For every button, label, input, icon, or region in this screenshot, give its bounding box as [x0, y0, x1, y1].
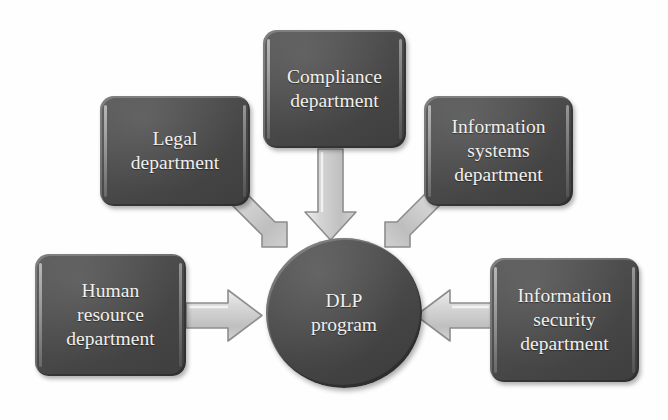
node-compliance-line-1: Compliance	[287, 66, 382, 87]
node-information-systems-department[interactable]: Information systems department	[424, 96, 573, 206]
node-dlp-program-label: DLP program	[311, 289, 377, 337]
node-legal-line-2: department	[131, 152, 220, 173]
node-hr-line-3: department	[66, 328, 155, 349]
diagram-canvas: Legal department Compliance department I…	[0, 0, 668, 420]
node-info-security-line-3: department	[520, 333, 609, 354]
node-dlp-program-line-1: DLP	[326, 290, 363, 311]
node-human-resource-department-label: Human resource department	[60, 279, 161, 350]
node-compliance-department-label: Compliance department	[281, 65, 388, 113]
node-hr-line-1: Human	[82, 280, 140, 301]
node-legal-department-label: Legal department	[125, 127, 226, 175]
node-legal-department[interactable]: Legal department	[100, 96, 250, 206]
node-info-security-line-2: security	[533, 309, 596, 330]
node-dlp-program-line-2: program	[311, 314, 377, 335]
node-dlp-program[interactable]: DLP program	[266, 238, 422, 388]
node-legal-line-1: Legal	[153, 128, 198, 149]
node-human-resource-department[interactable]: Human resource department	[35, 254, 186, 376]
node-info-security-line-1: Information	[517, 285, 611, 306]
node-information-systems-department-label: Information systems department	[445, 115, 551, 186]
arrow-info-security-to-center	[416, 290, 492, 341]
node-info-systems-line-3: department	[454, 164, 543, 185]
arrow-compliance-to-center	[305, 149, 356, 240]
node-hr-line-2: resource	[77, 304, 144, 325]
node-info-systems-line-2: systems	[467, 140, 529, 161]
node-compliance-line-2: department	[290, 90, 379, 111]
node-information-security-department-label: Information security department	[511, 284, 617, 355]
node-info-systems-line-1: Information	[451, 116, 545, 137]
arrow-human-resource-to-center	[186, 290, 262, 341]
node-information-security-department[interactable]: Information security department	[490, 258, 639, 382]
node-compliance-department[interactable]: Compliance department	[263, 30, 406, 148]
